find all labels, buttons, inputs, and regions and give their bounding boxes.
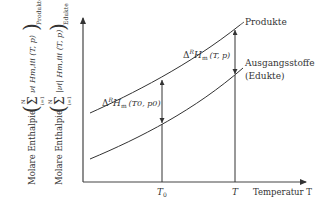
svg-text:Edukte: Edukte (62, 3, 69, 25)
products-label: Produkte (245, 17, 287, 27)
svg-text:N: N (20, 99, 26, 104)
svg-text:Molare Enthalpie: Molare Enthalpie (54, 110, 64, 185)
svg-text:(: ( (19, 105, 43, 113)
delta-t0-annotation: ΔRHm(T0, p0) (102, 96, 161, 109)
products-leader (240, 22, 244, 25)
enthalpy-diagram: Produkte Ausgangsstoffe (Edukte) ΔRHm(T,… (0, 0, 319, 211)
svg-text:(: ( (46, 105, 70, 113)
svg-text:i=1: i=1 (39, 96, 45, 105)
svg-text:i=1: i=1 (66, 96, 72, 105)
educts-label-line2: (Edukte) (245, 71, 285, 81)
svg-text:|νi| Hm,iii (T, p): |νi| Hm,iii (T, p) (55, 30, 64, 93)
svg-text:Σ: Σ (26, 97, 40, 105)
x-axis-label: Temperatur T (253, 187, 312, 197)
y-axis-label-educts: Molare Enthalpie ( Σ N i=1 |νi| Hm,iii (… (46, 3, 72, 185)
educts-curve (90, 68, 243, 159)
svg-text:Σ: Σ (53, 97, 67, 105)
svg-text:Molare Enthalpie: Molare Enthalpie (27, 110, 37, 185)
x-tick-t: T (232, 187, 239, 197)
educts-label-line1: Ausgangsstoffe (244, 58, 315, 68)
y-axis-label-products: Molare Enthalpie ( Σ N i=1 νi Hm,iii (T,… (19, 0, 45, 185)
svg-text:Produkte: Produkte (35, 0, 42, 25)
svg-text:νi Hm,iii (T, p): νi Hm,iii (T, p) (28, 35, 37, 93)
x-tick-t0: T0 (157, 187, 167, 198)
svg-text:ΔRHm(T0, p0): ΔRHm(T0, p0) (102, 96, 161, 109)
svg-text:N: N (47, 99, 53, 104)
